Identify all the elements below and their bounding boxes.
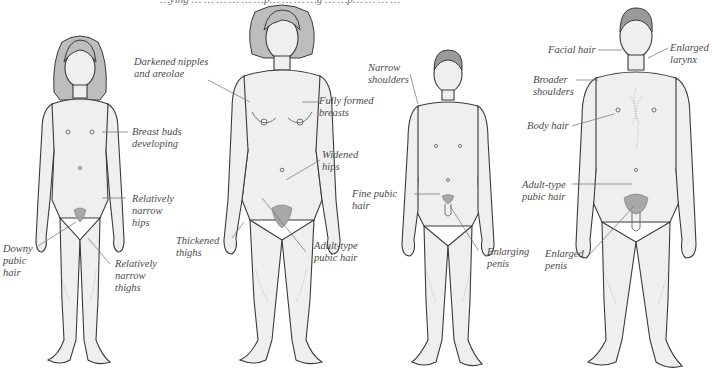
figure-boy (402, 50, 494, 366)
label-adult-type-pubic-hair-male: Adult-type pubic hair (522, 179, 566, 203)
figure-woman (224, 5, 340, 364)
figure-girl (36, 36, 124, 364)
label-broader-shoulders: Broader shoulders (533, 74, 574, 98)
label-thickened-thighs: Thickened thighs (176, 235, 219, 259)
label-relatively-narrow-hips: Relatively narrow hips (132, 193, 174, 229)
label-darkened-nipples-and-areolae: Darkened nipples and areolae (134, 56, 208, 80)
label-narrow-shoulders: Narrow shoulders (368, 62, 409, 86)
label-adult-type-pubic-hair-female: Adult-type pubic hair (314, 240, 358, 264)
label-enlarging-penis: Enlarging penis (487, 246, 529, 270)
label-downy-pubic-hair: Downy pubic hair (3, 243, 33, 279)
label-breast-buds-developing: Breast buds developing (132, 126, 182, 150)
label-fully-formed-breasts: Fully formed breasts (319, 95, 374, 119)
label-relatively-narrow-thighs: Relatively narrow thighs (115, 258, 157, 294)
label-enlarged-penis: Enlarged penis (545, 248, 584, 272)
label-fine-pubic-hair: Fine pubic hair (352, 188, 397, 212)
label-body-hair: Body hair (527, 120, 569, 132)
label-widened-hips: Widened hips (322, 149, 358, 173)
puberty-diagram: …ying … … … … … …p… … … …g … …p… … … … (0, 0, 712, 376)
label-facial-hair: Facial hair (548, 44, 596, 56)
label-enlarged-larynx: Enlarged larynx (670, 42, 709, 66)
